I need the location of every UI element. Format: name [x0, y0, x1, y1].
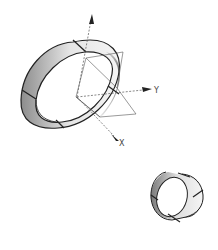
diagram-canvas: Y X — [0, 0, 218, 250]
y-axis-label: Y — [153, 86, 159, 95]
x-axis-arrow-icon — [111, 134, 119, 141]
z-axis-arrow-icon — [89, 14, 94, 24]
x-axis-label: X — [119, 139, 125, 148]
large-ring — [21, 40, 120, 128]
y-axis-arrow-icon — [142, 87, 152, 92]
small-ring — [151, 172, 203, 222]
